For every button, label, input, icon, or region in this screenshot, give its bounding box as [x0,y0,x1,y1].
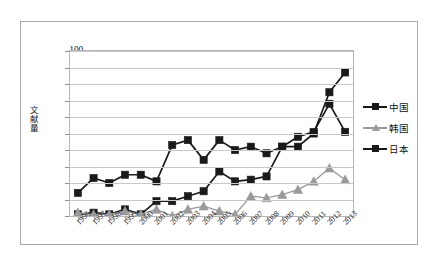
data-point-marker [325,164,334,173]
data-point-marker [137,171,144,178]
data-point-marker [326,89,333,96]
gridline [70,101,353,102]
x-axis-tick-mark [125,217,126,221]
data-point-marker [169,141,176,148]
x-axis-tick-mark [204,217,205,221]
gridline [70,84,353,85]
data-point-marker [90,174,97,181]
data-point-marker [293,185,302,194]
plot-area [69,50,354,217]
legend-swatch [363,144,387,154]
legend-item-1[interactable]: 中国 [363,96,413,117]
gridline [70,134,353,135]
x-axis-tick-mark [78,217,79,221]
data-point-marker [121,171,128,178]
figure-frame: 文献量 0102030405060708090100 1996199719981… [20,21,418,245]
legend-label: 韩国 [389,121,409,135]
x-axis-tick-mark [109,217,110,221]
x-axis-tick-mark [314,217,315,221]
gridline [70,51,353,52]
x-axis-tick-mark [156,217,157,221]
legend-square-marker-icon [372,103,380,111]
data-point-marker [200,156,207,163]
legend-swatch [363,123,387,133]
x-axis-tick-mark [141,217,142,221]
gridline [70,150,353,151]
x-axis-tick-mark [188,217,189,221]
x-axis-tick-mark [282,217,283,221]
x-axis-tick-mark [235,217,236,221]
data-point-marker [199,202,208,211]
gridline [70,183,353,184]
legend-item-3[interactable]: 日本 [363,138,413,159]
x-axis-tick-mark [345,217,346,221]
data-point-marker [200,188,207,195]
series-line [78,72,345,214]
series-1 [74,69,348,216]
x-axis-tick-mark [94,217,95,221]
x-axis-tick-mark [219,217,220,221]
legend-item-2[interactable]: 韩国 [363,117,413,138]
data-point-marker [263,173,270,180]
gridline [70,68,353,69]
gridline [70,200,353,201]
legend-square-marker-icon [372,145,380,153]
x-axis-tick-mark [298,217,299,221]
chart-legend: 中国韩国日本 [363,96,413,159]
x-axis-tick-mark [251,217,252,221]
x-axis-tick-mark [329,217,330,221]
data-point-marker [74,189,81,196]
x-axis-tick-mark [172,217,173,221]
data-point-marker [216,137,223,144]
gridline [70,167,353,168]
legend-triangle-marker-icon [372,124,380,131]
legend-label: 日本 [389,142,409,156]
data-point-marker [216,168,223,175]
data-point-marker [342,69,349,76]
y-axis-label: 文献量 [27,106,41,133]
x-axis-tick-mark [267,217,268,221]
gridline [70,117,353,118]
legend-swatch [363,102,387,112]
legend-label: 中国 [389,100,409,114]
chart-area: 文献量 0102030405060708090100 1996199719981… [21,22,419,246]
data-point-marker [184,137,191,144]
